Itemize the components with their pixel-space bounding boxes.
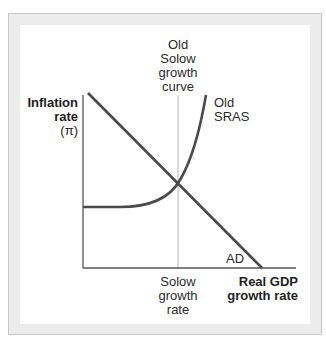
label-line: curve	[148, 80, 208, 94]
label-line: Old	[214, 96, 249, 110]
label-line: Solow	[150, 275, 206, 289]
label-line: SRAS	[214, 110, 249, 124]
x-axis-label: Real GDP growth rate	[218, 275, 298, 303]
y-axis-label: Inflation rate (π)	[24, 96, 78, 138]
ad-label: AD	[226, 252, 244, 266]
old-sras-label: Old SRAS	[214, 96, 249, 124]
label-line: Old	[148, 38, 208, 52]
label-line: Real GDP	[218, 275, 298, 289]
label-line: growth rate	[218, 289, 298, 303]
label-line: Solow	[148, 52, 208, 66]
old-solow-curve-label: Old Solow growth curve	[148, 38, 208, 94]
y-axis-label-symbol: (π)	[24, 124, 78, 138]
y-axis-label-line: Inflation	[24, 96, 78, 110]
y-axis-label-line: rate	[24, 110, 78, 124]
label-line: growth	[148, 66, 208, 80]
solow-growth-rate-label: Solow growth rate	[150, 275, 206, 317]
label-line: growth	[150, 289, 206, 303]
label-line: rate	[150, 303, 206, 317]
